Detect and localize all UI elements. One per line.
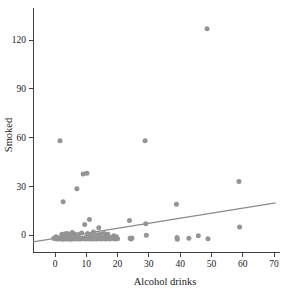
data-point [143,138,148,143]
data-point [174,202,179,207]
data-point [58,138,63,143]
data-point [79,231,84,236]
data-point [236,179,241,184]
x-tick-label: 60 [238,259,248,269]
data-point [96,225,101,230]
data-point [143,221,148,226]
data-point [87,217,92,222]
data-point [205,26,210,31]
y-tick-label: 90 [17,84,27,94]
data-point [74,186,79,191]
y-tick-label: 0 [21,230,26,240]
x-tick-label: 20 [113,259,123,269]
y-tick-label: 60 [17,133,27,143]
x-tick-label: 30 [144,259,154,269]
x-axis-title: Alcohol drinks [134,276,197,287]
data-point [129,235,134,240]
y-tick-group: 0306090120 [12,35,33,240]
x-tick-label: 10 [82,259,92,269]
scatter-plot-figure: 0306090120 010203040506070 Alcohol drink… [0,0,285,292]
x-tick-label: 50 [207,259,217,269]
data-point [196,233,201,238]
axis-spines [33,8,280,253]
data-point [61,199,66,204]
x-tick-group: 010203040506070 [53,253,279,270]
data-points-group [51,26,242,242]
data-point [115,236,120,241]
x-tick-label: 70 [269,259,279,269]
data-point [237,224,242,229]
y-tick-label: 30 [17,182,27,192]
axes-group [33,8,280,253]
data-point [82,222,87,227]
y-axis-title: Smoked [3,117,14,152]
data-point [84,171,89,176]
x-tick-label: 0 [53,259,58,269]
data-point [127,218,132,223]
data-point [186,236,191,241]
data-point [175,237,180,242]
x-tick-label: 40 [175,259,185,269]
plot-canvas: 0306090120 010203040506070 Alcohol drink… [0,0,285,292]
data-point [205,236,210,241]
y-tick-label: 120 [12,35,27,45]
data-point [144,233,149,238]
